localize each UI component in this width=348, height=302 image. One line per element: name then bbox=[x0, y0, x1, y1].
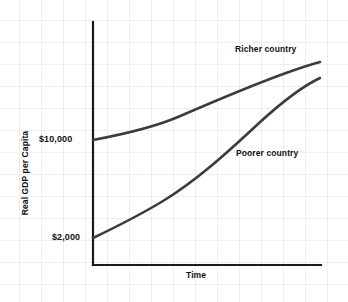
curve-poorer-country bbox=[93, 78, 320, 238]
y-axis-label: Real GDP per Capita bbox=[20, 123, 30, 223]
series-label-poorer-country: Poorer country bbox=[236, 148, 298, 158]
y-tick-label-10000: $10,000 bbox=[39, 134, 72, 144]
series-label-richer-country: Richer country bbox=[235, 44, 296, 54]
y-tick-label-2000: $2,000 bbox=[52, 232, 80, 242]
chart-figure: $10,000 $2,000 Richer country Poorer cou… bbox=[0, 0, 348, 302]
x-axis-label: Time bbox=[186, 270, 206, 280]
